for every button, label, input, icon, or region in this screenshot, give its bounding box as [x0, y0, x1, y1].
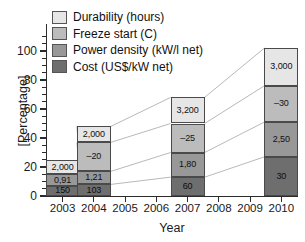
legend-swatch-icon — [52, 44, 67, 57]
bar-segment-value-label: 1,21 — [85, 173, 102, 182]
chart-container: 020406080100 200320042005200620072008200… — [0, 0, 305, 242]
bar-segment-value-label: 0,91 — [54, 176, 71, 185]
bar-segment-value-label: –20 — [87, 152, 102, 161]
x-tick-label: 2010 — [261, 203, 301, 215]
connector-line — [111, 153, 171, 172]
plot-area: 020406080100 200320042005200620072008200… — [0, 0, 305, 242]
x-tick — [93, 197, 94, 202]
bar-segment-value-label: 60 — [183, 182, 193, 191]
y-tick-label: 0 — [0, 190, 37, 202]
legend-item: Cost (US$/kW net) — [52, 59, 203, 76]
connector-line — [111, 177, 171, 184]
bar-segment: –20 — [77, 142, 111, 171]
y-tick-minor — [42, 152, 46, 153]
x-tick — [218, 197, 219, 202]
legend-item: Freeze start (C) — [52, 26, 203, 43]
legend-label: Cost (US$/kW net) — [73, 61, 173, 73]
y-tick-minor — [42, 87, 46, 88]
bar-segment-value-label: 150 — [55, 186, 70, 195]
connector-line — [205, 122, 265, 152]
connector-line — [205, 86, 265, 124]
bar-segment-value-label: 103 — [87, 186, 102, 195]
bar-segment: 3,000 — [264, 48, 298, 86]
legend-label: Freeze start (C) — [73, 28, 157, 40]
x-tick — [156, 197, 157, 202]
bar-segment-value-label: 3,000 — [270, 62, 292, 71]
bar-segment: 3,200 — [171, 97, 205, 123]
bar-segment: 1,80 — [171, 153, 205, 178]
bar-segment-value-label: 1,80 — [179, 160, 196, 169]
legend-swatch-icon — [52, 11, 67, 24]
y-tick-minor — [42, 43, 46, 44]
bar-segment-value-label: 30 — [276, 172, 286, 181]
chart-legend: Durability (hours)Freeze start (C)Power … — [52, 9, 203, 75]
x-tick — [62, 197, 63, 202]
legend-swatch-icon — [52, 27, 67, 40]
x-tick — [281, 197, 282, 202]
x-tick — [125, 197, 126, 202]
bar-segment: –25 — [171, 124, 205, 153]
y-tick-minor — [42, 72, 46, 73]
bar-segment: –30 — [264, 86, 298, 122]
legend-label: Durability (hours) — [73, 11, 164, 23]
x-axis-title: Year — [46, 221, 298, 235]
connector-line — [205, 157, 265, 177]
bar-segment-value-label: 2,50 — [273, 135, 290, 144]
bar-segment: 30 — [264, 157, 298, 196]
connector-line — [111, 97, 171, 126]
y-tick-minor — [42, 58, 46, 59]
legend-swatch-icon — [52, 60, 67, 73]
bar-segment-value-label: 3,200 — [177, 106, 199, 115]
bar-segment-value-label: –25 — [180, 134, 195, 143]
bar-segment: 103 — [77, 184, 111, 196]
bar-segment: 1,21 — [77, 171, 111, 184]
bar-segment: 150 — [46, 186, 80, 196]
y-axis-title: [Percentage] — [16, 46, 30, 176]
x-tick — [250, 197, 251, 202]
legend-item: Power density (kW/l net) — [52, 42, 203, 59]
bar-segment-value-label: –30 — [274, 99, 289, 108]
y-tick-minor — [42, 123, 46, 124]
y-tick-major — [40, 79, 46, 80]
bar-segment: 0,91 — [46, 174, 80, 186]
legend-item: Durability (hours) — [52, 9, 203, 26]
bar-segment: 2,50 — [264, 122, 298, 157]
y-tick-minor — [42, 101, 46, 102]
bar-segment-value-label: 2,000 — [83, 130, 105, 139]
y-tick-minor — [42, 65, 46, 66]
bar-segment: 2,000 — [46, 160, 80, 175]
y-tick-minor — [42, 130, 46, 131]
y-tick-minor — [42, 94, 46, 95]
connector-line — [111, 124, 171, 143]
y-tick-major — [40, 108, 46, 109]
y-tick-minor — [42, 145, 46, 146]
bar-segment-value-label: 2,000 — [52, 163, 74, 172]
y-tick-major — [40, 50, 46, 51]
bar-segment: 60 — [171, 177, 205, 196]
y-tick-major — [40, 137, 46, 138]
connector-line — [205, 48, 265, 97]
legend-label: Power density (kW/l net) — [73, 44, 203, 56]
y-tick-minor — [42, 36, 46, 37]
y-tick-minor — [42, 116, 46, 117]
bar-segment: 2,000 — [77, 126, 111, 142]
x-tick — [187, 197, 188, 202]
